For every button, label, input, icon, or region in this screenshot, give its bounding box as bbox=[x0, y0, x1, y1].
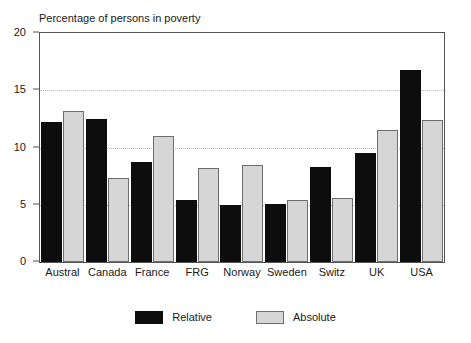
bar-group bbox=[354, 33, 399, 262]
bar-group bbox=[399, 33, 444, 262]
bar-norway-absolute[interactable] bbox=[242, 165, 263, 262]
x-tick-label-sweden: Sweden bbox=[267, 266, 307, 279]
legend-label-absolute: Absolute bbox=[293, 311, 336, 324]
bar-canada-absolute[interactable] bbox=[108, 178, 129, 262]
y-tick-label: 10 bbox=[14, 141, 26, 152]
bar-france-relative[interactable] bbox=[131, 162, 152, 262]
chart-title: Percentage of persons in poverty bbox=[39, 12, 200, 25]
x-tick-label-switz: Switz bbox=[319, 266, 345, 279]
y-tick-label: 20 bbox=[14, 27, 26, 38]
bar-norway-relative[interactable] bbox=[220, 205, 241, 262]
bar-group bbox=[309, 33, 354, 262]
x-tick-label-uk: UK bbox=[369, 266, 384, 279]
bar-switz-relative[interactable] bbox=[310, 167, 331, 262]
y-axis: 05101520 bbox=[0, 26, 39, 269]
bar-austral-relative[interactable] bbox=[41, 122, 62, 262]
bar-uk-relative[interactable] bbox=[355, 153, 376, 262]
plot-inner bbox=[40, 33, 444, 262]
y-tick-label: 0 bbox=[20, 256, 26, 267]
bar-uk-absolute[interactable] bbox=[377, 130, 398, 262]
y-tick-label: 15 bbox=[14, 84, 26, 95]
bar-group bbox=[40, 33, 85, 262]
legend-label-relative: Relative bbox=[172, 311, 212, 324]
bar-group bbox=[85, 33, 130, 262]
x-tick-label-france: France bbox=[135, 266, 169, 279]
bar-group bbox=[175, 33, 220, 262]
legend-swatch-absolute bbox=[256, 311, 284, 324]
legend-item-absolute[interactable]: Absolute bbox=[256, 311, 336, 324]
x-tick-label-frg: FRG bbox=[185, 266, 208, 279]
legend-item-relative[interactable]: Relative bbox=[135, 311, 212, 324]
bar-usa-absolute[interactable] bbox=[422, 120, 443, 262]
legend-swatch-relative bbox=[135, 311, 163, 324]
bar-group bbox=[220, 33, 265, 262]
plot-area bbox=[39, 32, 445, 263]
chart-legend: RelativeAbsolute bbox=[0, 305, 471, 329]
bar-france-absolute[interactable] bbox=[153, 136, 174, 262]
bar-canada-relative[interactable] bbox=[86, 119, 107, 262]
bar-group bbox=[264, 33, 309, 262]
y-tick-label: 5 bbox=[20, 198, 26, 209]
bar-group bbox=[130, 33, 175, 262]
bar-switz-absolute[interactable] bbox=[332, 198, 353, 262]
bar-frg-relative[interactable] bbox=[176, 200, 197, 262]
bar-frg-absolute[interactable] bbox=[198, 168, 219, 262]
x-tick-label-norway: Norway bbox=[223, 266, 260, 279]
bar-sweden-relative[interactable] bbox=[265, 204, 286, 262]
chart-figure: Percentage of persons in poverty 0510152… bbox=[0, 0, 471, 343]
x-tick-label-austral: Austral bbox=[45, 266, 79, 279]
x-axis-labels: AustralCanadaFranceFRGNorwaySwedenSwitzU… bbox=[39, 266, 445, 284]
bar-austral-absolute[interactable] bbox=[63, 111, 84, 262]
x-tick-label-canada: Canada bbox=[88, 266, 127, 279]
x-tick-label-usa: USA bbox=[410, 266, 433, 279]
bar-sweden-absolute[interactable] bbox=[287, 200, 308, 262]
bar-usa-relative[interactable] bbox=[400, 70, 421, 262]
